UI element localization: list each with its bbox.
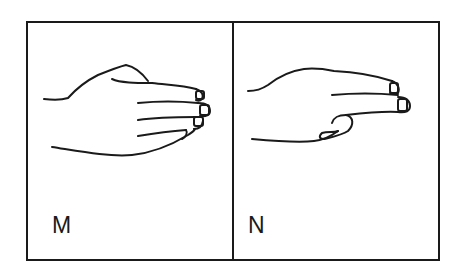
letter-label-m: M xyxy=(52,214,71,237)
panel-m: M xyxy=(28,23,232,259)
panel-n: N xyxy=(234,23,438,259)
letter-label-n: N xyxy=(248,214,265,237)
figure-frame: M N xyxy=(26,21,440,261)
